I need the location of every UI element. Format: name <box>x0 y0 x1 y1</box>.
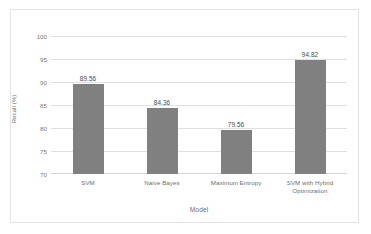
bar-slot: 89.56 <box>51 36 125 174</box>
x-category-line: Optimization <box>273 187 347 195</box>
bar-value-label: 89.56 <box>80 75 97 82</box>
bar-rect[interactable] <box>295 60 326 174</box>
x-category-line: Naive Bayes <box>125 179 199 187</box>
x-category-label: Naive Bayes <box>125 177 199 203</box>
bar-rect[interactable] <box>147 108 178 174</box>
bar-value-label: 94.82 <box>302 51 319 58</box>
y-tick-label: 100 <box>37 33 47 40</box>
x-category-label: Maximum Entropy <box>199 177 273 203</box>
x-category-label: SVM with Hybrid Optimization <box>273 177 347 203</box>
plot-area: 89.56 84.36 79.56 94.82 <box>51 36 347 174</box>
bar-rect[interactable] <box>221 130 252 174</box>
y-tick-label: 75 <box>40 147 47 154</box>
bar-slot: 84.36 <box>125 36 199 174</box>
x-category-label: SVM <box>51 177 125 203</box>
x-axis-title: Model <box>51 206 347 213</box>
y-axis-title: Recall (%) <box>11 74 17 144</box>
bar-value-label: 79.56 <box>228 121 245 128</box>
y-tick-label: 85 <box>40 102 47 109</box>
x-category-line: SVM <box>51 179 125 187</box>
y-tick-label: 80 <box>40 125 47 132</box>
y-axis-tick-labels: 100 95 90 85 80 75 70 <box>25 36 47 174</box>
y-tick-label: 95 <box>40 56 47 63</box>
bar-value-label: 84.36 <box>154 99 171 106</box>
chart-plot-wrapper: Recall (%) 100 95 90 85 80 75 70 89.56 <box>11 10 358 222</box>
bar-slot: 79.56 <box>199 36 273 174</box>
y-tick-label: 90 <box>40 78 47 85</box>
bar-series: 89.56 84.36 79.56 94.82 <box>51 36 347 174</box>
x-axis-category-labels: SVM Naive Bayes Maximum Entropy SVM with… <box>51 177 347 203</box>
y-tick-label: 70 <box>40 171 47 178</box>
x-category-line: Maximum Entropy <box>199 179 273 187</box>
chart-container: Recall (%) 100 95 90 85 80 75 70 89.56 <box>10 9 359 223</box>
x-category-line: SVM with Hybrid <box>273 179 347 187</box>
bar-rect[interactable] <box>73 84 104 174</box>
bar-slot: 94.82 <box>273 36 347 174</box>
